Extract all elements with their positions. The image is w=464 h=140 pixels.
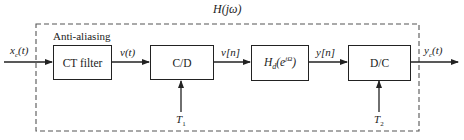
- anti-aliasing-label: Anti-aliasing: [53, 31, 110, 42]
- y-n-label: y[n]: [316, 47, 335, 58]
- t1-label: T1: [176, 114, 186, 128]
- c-to-d-block: C/D: [150, 45, 214, 80]
- discrete-system-block: Hd(ejΩ): [251, 45, 309, 81]
- v-t-label: v(t): [120, 47, 135, 58]
- ct-filter-label: CT filter: [63, 57, 103, 69]
- c-to-d-label: C/D: [172, 57, 191, 69]
- t2-label: T2: [374, 114, 384, 128]
- d-to-c-block: D/C: [348, 45, 411, 81]
- v-n-label: v[n]: [221, 47, 240, 58]
- d-to-c-label: D/C: [370, 57, 389, 69]
- discrete-system-label: Hd(ejΩ): [264, 55, 296, 71]
- ct-filter-block: CT filter: [53, 45, 112, 80]
- overall-system-label: H(jω): [213, 3, 241, 15]
- output-signal-label: yc(t): [424, 45, 442, 59]
- input-signal-label: xc(t): [10, 45, 28, 59]
